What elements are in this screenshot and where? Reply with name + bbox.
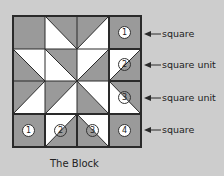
piece-number: 3: [118, 91, 131, 104]
piece-number: 4: [118, 124, 131, 137]
label-square: square: [162, 29, 194, 39]
quilt-block: [0, 0, 224, 176]
label-square: square: [162, 125, 194, 135]
piece-number: 1: [22, 124, 35, 137]
piece-number: 2: [118, 58, 131, 71]
label-square-unit: square unit: [162, 60, 216, 70]
piece-number: 1: [118, 26, 131, 39]
piece-number: 3: [86, 124, 99, 137]
caption: The Block: [50, 158, 99, 169]
label-square-unit: square unit: [162, 93, 216, 103]
piece-number: 2: [54, 124, 67, 137]
